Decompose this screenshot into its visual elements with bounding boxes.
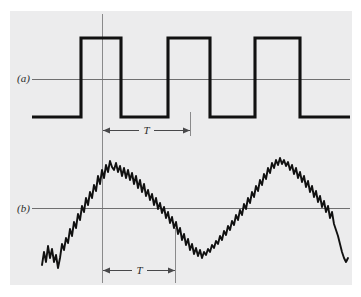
panel-b-label: (b) [17, 202, 30, 215]
panel-a-period-dimension: T [103, 124, 190, 137]
panel-a-arrow-left-icon [103, 128, 110, 134]
panel-a-period-label: T [143, 124, 150, 136]
panel-a-group: (a) T [17, 38, 350, 137]
signal-waveform-figure: (a) T (b) T [0, 0, 361, 297]
panel-a-label: (a) [17, 72, 30, 85]
panel-b-group: (b) T [17, 158, 350, 277]
panel-b-arrow-right-icon [168, 268, 175, 274]
noisy-wave-trace [42, 158, 348, 268]
square-wave-trace [32, 38, 350, 117]
panel-b-period-label: T [136, 264, 143, 276]
panel-b-arrow-left-icon [103, 268, 110, 274]
panel-a-arrow-right-icon [183, 128, 190, 134]
guide-lines-group [103, 14, 191, 283]
figure-root: (a) T (b) T [0, 0, 361, 297]
panel-b-period-dimension: T [103, 264, 175, 277]
